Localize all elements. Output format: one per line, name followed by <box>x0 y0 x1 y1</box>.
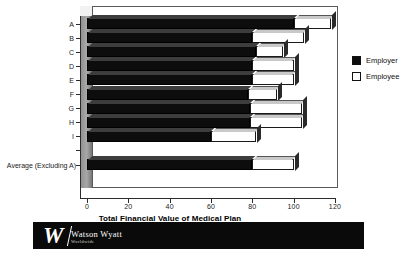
x-axis-tick-label: 40 <box>166 203 174 210</box>
y-axis-tick <box>76 150 80 151</box>
bar-segment-employer <box>87 60 252 71</box>
bar-top-face-employee <box>251 100 305 104</box>
brand-name: Watson Wyatt <box>71 229 122 239</box>
bar-row <box>0 117 340 128</box>
bar-segment-employer <box>87 89 248 100</box>
bar-top-face-employee <box>249 86 280 90</box>
bar-top-face-employer <box>88 128 214 132</box>
x-axis-line <box>80 198 336 199</box>
bar-end-cap <box>278 82 282 101</box>
bar-row <box>0 46 340 57</box>
bar-top-face-employer <box>88 43 260 47</box>
bar-row <box>0 32 340 43</box>
bar-top-face-employer <box>88 29 256 33</box>
chart-legend: Employer Employee <box>352 56 399 88</box>
bar-end-cap <box>332 11 336 30</box>
bar-top-face-employee <box>253 71 297 75</box>
bar-end-cap <box>295 67 299 86</box>
bar-end-cap <box>295 152 299 171</box>
bar-segment-employer <box>87 159 252 170</box>
bar-top-face-employer <box>88 156 256 160</box>
bar-end-cap <box>257 124 261 143</box>
bar-segment-employee <box>252 159 293 170</box>
bar-row <box>0 131 340 142</box>
x-axis-tick-label: 20 <box>124 203 132 210</box>
bar-top-face-employee <box>212 128 260 132</box>
filled-black-square-icon <box>352 56 361 65</box>
bar-row <box>0 18 340 29</box>
bar-segment-employer <box>87 32 252 43</box>
bar-segment-employer <box>87 131 211 142</box>
outlined-white-square-icon <box>352 72 361 81</box>
bar-end-cap <box>303 110 307 129</box>
bar-top-face-employer <box>88 114 254 118</box>
bar-segment-employer <box>87 74 252 85</box>
chart-page: 020406080100120 ABCDEFGHIAverage (Exclud… <box>0 0 404 256</box>
legend-label-employee: Employee <box>366 72 399 81</box>
bar-top-face-employee <box>253 29 307 33</box>
bar-end-cap <box>305 25 309 44</box>
bar-row <box>0 103 340 114</box>
bar-row <box>0 159 340 170</box>
bar-top-face-employee <box>251 114 305 118</box>
bar-segment-employee <box>211 131 256 142</box>
footer-logo-bar: W Watson Wyatt Worldwide <box>33 222 364 249</box>
bar-end-cap <box>284 39 288 58</box>
brand-tagline: Worldwide <box>71 239 94 244</box>
bar-segment-employer <box>87 46 256 57</box>
bar-top-face-employee <box>253 57 297 61</box>
x-axis-tick-label: 80 <box>248 203 256 210</box>
legend-item-employee: Employee <box>352 72 399 81</box>
bar-top-face-employee <box>253 156 297 160</box>
bar-top-face-employer <box>88 86 252 90</box>
bar-segment-employee <box>256 46 283 57</box>
x-axis-tick-label: 60 <box>207 203 215 210</box>
plot-top-face <box>80 6 92 16</box>
watson-wyatt-w-monogram-icon: W <box>43 225 69 247</box>
bar-segment-employee <box>294 18 331 29</box>
bar-segment-employer <box>87 103 250 114</box>
bar-row <box>0 60 340 71</box>
bar-segment-employee <box>252 60 293 71</box>
bar-top-face-employee <box>257 43 286 47</box>
bar-top-face-employee <box>295 15 335 19</box>
bar-top-face-employer <box>88 15 297 19</box>
legend-label-employer: Employer <box>366 56 398 65</box>
chart-canvas: 020406080100120 ABCDEFGHIAverage (Exclud… <box>0 0 404 205</box>
x-axis-tick-label: 100 <box>288 203 300 210</box>
bar-segment-employer <box>87 117 250 128</box>
x-axis-tick-label: 120 <box>329 203 341 210</box>
bar-segment-employer <box>87 18 294 29</box>
bar-segment-employee <box>252 32 304 43</box>
bar-segment-employee <box>252 74 293 85</box>
bar-top-face-employer <box>88 100 254 104</box>
legend-item-employer: Employer <box>352 56 399 65</box>
x-axis-tick-label: 0 <box>85 203 89 210</box>
bar-top-face-employer <box>88 71 256 75</box>
bar-row <box>0 74 340 85</box>
bar-segment-employee <box>248 89 277 100</box>
bar-row <box>0 89 340 100</box>
bar-top-face-employer <box>88 57 256 61</box>
bar-segment-employee <box>250 103 302 114</box>
